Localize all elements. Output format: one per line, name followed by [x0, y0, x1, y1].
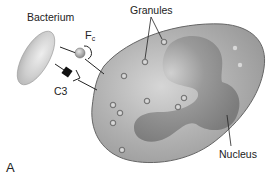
- label-fc-main: F: [85, 29, 92, 41]
- label-fc: Fc: [85, 30, 95, 42]
- bacterium: [10, 26, 63, 91]
- c3-complement-icon: [61, 66, 72, 77]
- fc-antibody-icon: [75, 48, 85, 58]
- label-fc-subscript: c: [92, 35, 96, 42]
- label-granules: Granules: [130, 5, 173, 16]
- phagocytosis-diagram: Bacterium Fc C3 Granules Nucleus A: [0, 0, 279, 186]
- panel-label: A: [6, 160, 15, 175]
- label-c3: C3: [54, 86, 67, 97]
- label-nucleus: Nucleus: [219, 149, 257, 160]
- label-bacterium: Bacterium: [27, 12, 74, 23]
